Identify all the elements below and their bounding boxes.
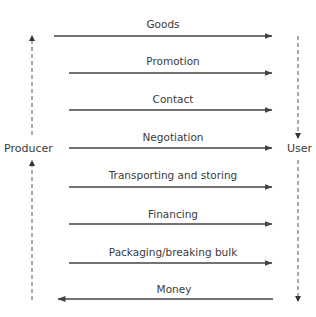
user-label: User	[287, 142, 312, 155]
flow-label-money: Money	[157, 283, 192, 295]
flow-label-negotiation: Negotiation	[143, 131, 204, 143]
flow-label-transporting: Transporting and storing	[109, 169, 238, 181]
producer-label: Producer	[4, 142, 53, 155]
flow-label-goods: Goods	[146, 18, 179, 30]
flow-label-contact: Contact	[153, 93, 194, 105]
diagram-canvas	[0, 0, 316, 317]
flow-label-financing: Financing	[148, 208, 198, 220]
flow-label-packaging: Packaging/breaking bulk	[109, 246, 237, 258]
flow-label-promotion: Promotion	[146, 55, 199, 67]
marketing-flows-diagram: Producer User Goods Promotion Contact Ne…	[0, 0, 316, 317]
